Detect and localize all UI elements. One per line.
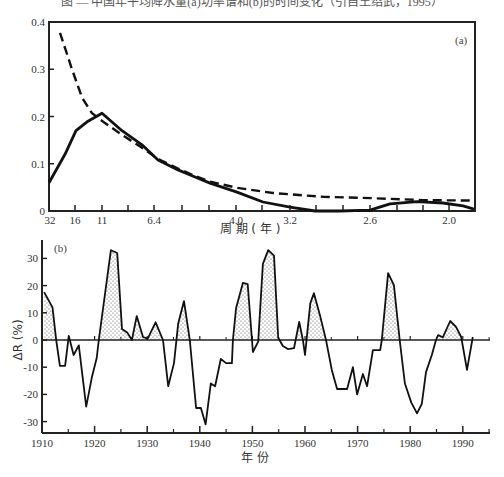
x-tick-label: 1970 xyxy=(347,437,370,449)
y-tick-label: 0.3 xyxy=(31,63,45,75)
x-tick-label: 32 xyxy=(45,214,56,226)
panel-a-power-spectrum: 00.10.20.30.4 3216116.44.03.22.62.0 (a) … xyxy=(31,16,475,236)
y-tick-label: 30 xyxy=(27,252,39,264)
x-tick-label: 1910 xyxy=(31,437,54,449)
x-tick-label: 1920 xyxy=(84,437,107,449)
panel-b-precipitation-anomaly: -30-20-100102030 19101920193019401950196… xyxy=(11,240,490,465)
y-tick-label: -30 xyxy=(23,416,38,428)
y-tick-label: 0 xyxy=(33,334,39,346)
panel-b-y-ticks: -30-20-100102030 xyxy=(23,252,47,427)
x-tick-label: 16 xyxy=(70,214,82,226)
x-tick-label: 1980 xyxy=(399,437,422,449)
panel-a-dashed-curve xyxy=(60,33,474,201)
y-tick-label: 0.1 xyxy=(31,158,45,170)
x-tick-label: 6.4 xyxy=(147,214,161,226)
panel-b-y-axis-title: ΔR (%) xyxy=(11,319,25,360)
x-tick-label: 1960 xyxy=(294,437,317,449)
y-tick-label: -20 xyxy=(23,388,38,400)
figure: 00.10.20.30.4 3216116.44.03.22.62.0 (a) … xyxy=(0,0,504,477)
x-tick-label: 1950 xyxy=(241,437,264,449)
panel-b-x-axis-title: 年 份 xyxy=(241,451,269,465)
panel-a-y-axis: 00.10.20.30.4 xyxy=(31,16,54,217)
panel-a-x-axis-title: 周 期 ( 年 ) xyxy=(220,222,281,236)
y-tick-label: 0.4 xyxy=(31,16,45,28)
panel-a-frame xyxy=(49,22,475,211)
panel-a-label: (a) xyxy=(455,34,468,47)
y-tick-label: -10 xyxy=(23,361,38,373)
y-tick-label: 20 xyxy=(27,280,39,292)
x-tick-label: 11 xyxy=(97,214,108,226)
y-tick-label: 0.2 xyxy=(31,111,45,123)
x-tick-label: 1930 xyxy=(136,437,159,449)
x-tick-label: 1990 xyxy=(452,437,475,449)
x-tick-label: 2.6 xyxy=(363,214,377,226)
y-tick-label: 10 xyxy=(27,307,39,319)
x-tick-label: 3.2 xyxy=(283,214,297,226)
panel-b-label: (b) xyxy=(54,242,67,255)
x-tick-label: 1940 xyxy=(189,437,212,449)
x-tick-label: 2.0 xyxy=(442,214,456,226)
